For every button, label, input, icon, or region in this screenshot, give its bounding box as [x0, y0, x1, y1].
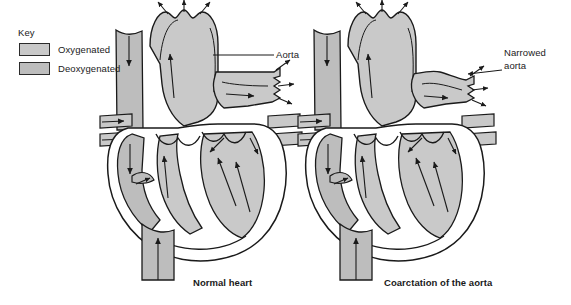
- annotation-narrowed-aorta: Narrowed aorta: [504, 47, 568, 72]
- caption-coarctation: Coarctation of the aorta: [384, 277, 492, 288]
- key-title: Key: [18, 27, 35, 38]
- key-label-deoxygenated: Deoxygenated: [58, 63, 120, 74]
- figure-canvas: Key Oxygenated Deoxygenated Aorta Narrow…: [0, 0, 571, 305]
- key-item-oxygenated: Oxygenated: [19, 43, 110, 56]
- annotation-narrowed-aorta-line1: Narrowed: [504, 47, 546, 58]
- narrowed-aorta-leader-line: [468, 70, 502, 74]
- annotation-narrowed-aorta-line2: aorta: [504, 60, 526, 71]
- annotation-aorta: Aorta: [276, 49, 299, 62]
- caption-normal-heart: Normal heart: [193, 277, 252, 288]
- key-label-oxygenated: Oxygenated: [58, 44, 110, 55]
- key-swatch-oxygenated: [19, 43, 50, 56]
- coarctation-heart-illustration: [298, 0, 496, 280]
- normal-heart-illustration: [100, 0, 302, 280]
- key-item-deoxygenated: Deoxygenated: [19, 62, 120, 75]
- key-swatch-deoxygenated: [19, 62, 50, 75]
